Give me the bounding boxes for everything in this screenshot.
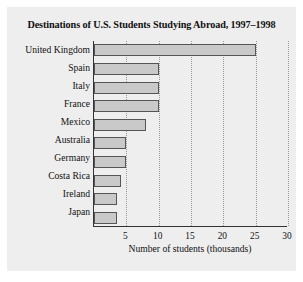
bars-region [93, 41, 287, 227]
y-tick-label: Italy [6, 81, 90, 91]
y-tick-label: Germany [6, 153, 90, 163]
bar [94, 119, 146, 131]
y-tick-label: United Kingdom [6, 45, 90, 55]
plot-area: United Kingdom Spain Italy France Mexico… [7, 41, 296, 271]
gridline [159, 41, 160, 226]
bar [94, 63, 159, 75]
bar [94, 175, 121, 187]
y-tick-label: Costa Rica [6, 171, 90, 181]
bar [94, 82, 159, 94]
x-tick-label: 25 [243, 231, 267, 241]
gridline [223, 41, 224, 226]
bar [94, 193, 117, 205]
bar [94, 212, 117, 224]
y-tick-label: Spain [6, 63, 90, 73]
y-tick-label: France [6, 99, 90, 109]
y-tick-label: Japan [6, 207, 90, 217]
x-tick-label: 15 [178, 231, 202, 241]
y-axis-labels: United Kingdom Spain Italy France Mexico… [7, 41, 93, 227]
bar [94, 100, 159, 112]
gridline [288, 41, 289, 226]
x-tick-label: 30 [275, 231, 299, 241]
x-tick-label: 20 [210, 231, 234, 241]
x-axis-ticks: 51015202530 [93, 227, 287, 243]
gridline [191, 41, 192, 226]
bar [94, 156, 126, 168]
x-tick-label: 10 [146, 231, 170, 241]
x-tick-label: 5 [113, 231, 137, 241]
y-tick-label: Mexico [6, 117, 90, 127]
gridline [256, 41, 257, 226]
chart-panel: Destinations of U.S. Students Studying A… [7, 7, 296, 271]
y-tick-label: Ireland [6, 189, 90, 199]
y-tick-label: Australia [6, 135, 90, 145]
x-axis-label: Number of students (thousands) [93, 243, 287, 254]
bar [94, 44, 256, 56]
chart-title: Destinations of U.S. Students Studying A… [7, 19, 296, 30]
bar [94, 137, 126, 149]
